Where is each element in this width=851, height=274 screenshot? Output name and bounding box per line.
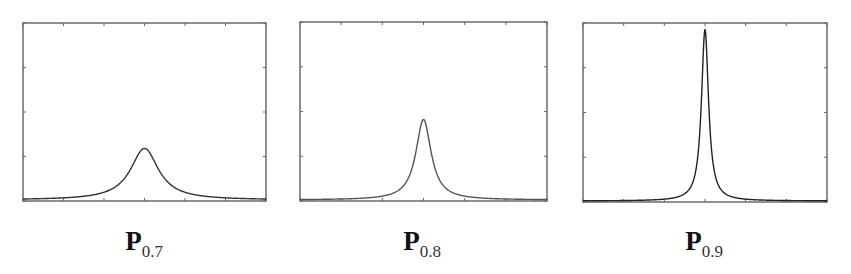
peak-curve [300, 119, 547, 199]
caption-p09: P0.9 [604, 226, 804, 262]
caption-subscript: 0.7 [142, 242, 163, 261]
plot-p08 [299, 21, 548, 202]
plot-p07 [22, 22, 267, 202]
peak-curve [23, 148, 266, 199]
caption-symbol: P [403, 226, 420, 256]
caption-p07: P0.7 [44, 226, 244, 262]
plot-p07-svg [22, 22, 267, 202]
caption-subscript: 0.9 [702, 242, 723, 261]
caption-subscript: 0.8 [420, 242, 441, 261]
plot-p09 [582, 22, 828, 203]
caption-p08: P0.8 [322, 226, 522, 262]
peak-curve [583, 29, 827, 201]
caption-symbol: P [685, 226, 702, 256]
plot-p08-svg [299, 21, 548, 202]
plot-p09-svg [582, 22, 828, 203]
caption-symbol: P [125, 226, 142, 256]
